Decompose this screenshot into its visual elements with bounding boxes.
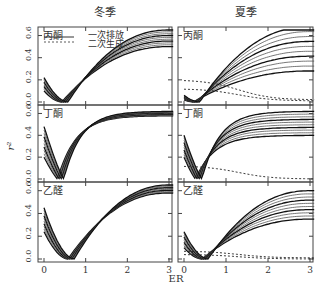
primary-emission-curve <box>44 193 173 259</box>
primary-emission-curve <box>44 41 173 102</box>
primary-emission-curve <box>184 219 314 259</box>
x-tick-label: 2 <box>124 265 130 275</box>
secondary-formation-curve <box>184 251 314 257</box>
primary-emission-curve <box>44 187 173 259</box>
compound-label: 丙酮 <box>43 30 63 41</box>
compound-label: 丁酮 <box>43 108 63 119</box>
legend-secondary-label: 二次生成 <box>88 38 124 49</box>
column-title: 冬季 <box>94 5 116 19</box>
primary-emission-curve <box>184 30 314 102</box>
primary-emission-curve <box>184 46 314 102</box>
y-tick-label: 0.0 <box>24 170 33 183</box>
primary-emission-curve <box>184 210 314 259</box>
y-tick-label: 0.4 <box>24 126 33 139</box>
y-tick-label: 0.2 <box>24 148 33 161</box>
x-tick-label: 3 <box>307 265 313 275</box>
multi-panel-line-chart: 冬季夏季0.00.20.40.6丙酮丙酮0.00.20.40.6丁酮丁酮0.00… <box>0 0 326 297</box>
primary-emission-curve <box>44 185 173 259</box>
y-tick-label: 0.0 <box>24 250 33 263</box>
primary-emission-curve <box>44 189 173 259</box>
compound-label: 乙醛 <box>183 184 203 196</box>
primary-emission-curve <box>44 188 173 259</box>
compound-label: 乙醛 <box>43 184 63 196</box>
y-tick-label: 0.4 <box>24 48 33 61</box>
primary-emission-curve <box>184 200 314 259</box>
y-tick-label: 0.4 <box>24 204 33 217</box>
y-tick-label: 0.6 <box>24 26 33 39</box>
x-tick-label: 2 <box>265 265 271 275</box>
x-tick-label: 1 <box>83 265 89 275</box>
y-tick-label: 0.6 <box>24 104 33 117</box>
compound-label: 丙酮 <box>183 30 203 41</box>
y-tick-label: 0.2 <box>24 70 33 83</box>
primary-emission-curve <box>44 43 173 102</box>
compound-label: 丁酮 <box>183 108 203 119</box>
primary-emission-curve <box>44 189 173 259</box>
y-axis-label: r² <box>5 142 16 151</box>
primary-emission-curve <box>44 192 173 259</box>
x-axis-label: ER <box>169 273 184 284</box>
y-tick-label: 0.0 <box>24 93 33 106</box>
x-tick-label: 0 <box>41 265 47 275</box>
primary-emission-curve <box>44 190 173 259</box>
primary-emission-curve <box>44 114 173 178</box>
y-tick-label: 0.6 <box>24 181 33 194</box>
chart-root: 冬季夏季0.00.20.40.6丙酮丙酮0.00.20.40.6丁酮丁酮0.00… <box>0 0 326 297</box>
x-tick-label: 1 <box>223 265 229 275</box>
column-title: 夏季 <box>235 6 257 19</box>
y-tick-label: 0.2 <box>24 227 33 240</box>
primary-emission-curve <box>44 191 173 259</box>
primary-emission-curve <box>44 186 173 259</box>
